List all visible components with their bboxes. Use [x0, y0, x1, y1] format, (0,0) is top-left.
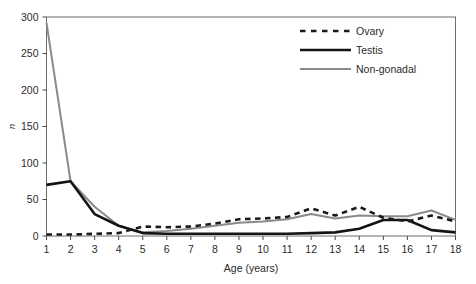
chart-figure: 050100150200250300 123456789101112131415…	[0, 0, 476, 284]
x-tick-label: 14	[353, 243, 365, 255]
series-line-non-gonadal	[47, 23, 456, 233]
x-axis-title: Age (years)	[224, 262, 278, 274]
x-tick-label: 6	[164, 243, 170, 255]
data-series-group	[47, 23, 456, 235]
x-tick-label: 5	[140, 243, 146, 255]
x-axis-ticks: 123456789101112131415161718	[44, 236, 462, 255]
y-tick-label: 100	[21, 157, 39, 169]
x-tick-label: 3	[92, 243, 98, 255]
plot-frame	[47, 17, 456, 236]
x-tick-label: 18	[450, 243, 462, 255]
x-tick-label: 2	[68, 243, 74, 255]
x-tick-label: 1	[44, 243, 50, 255]
legend-label: Testis	[356, 44, 383, 56]
chart-legend: OvaryTestisNon-gonadal	[300, 25, 416, 75]
x-tick-label: 12	[305, 243, 317, 255]
x-tick-label: 8	[212, 243, 218, 255]
x-tick-label: 7	[188, 243, 194, 255]
series-line-testis	[47, 181, 456, 234]
x-tick-label: 4	[116, 243, 122, 255]
x-tick-label: 16	[402, 243, 414, 255]
chart-canvas: 050100150200250300 123456789101112131415…	[0, 0, 476, 284]
y-axis-ticks: 050100150200250300	[21, 11, 47, 242]
y-axis-title: n	[5, 123, 17, 129]
x-tick-label: 10	[257, 243, 269, 255]
plot-box	[47, 17, 456, 236]
x-tick-label: 17	[426, 243, 438, 255]
x-tick-label: 13	[329, 243, 341, 255]
y-tick-label: 200	[21, 84, 39, 96]
y-tick-label: 0	[33, 230, 39, 242]
legend-label: Non-gonadal	[356, 63, 416, 75]
legend-label: Ovary	[356, 25, 385, 37]
y-tick-label: 50	[27, 193, 39, 205]
x-tick-label: 9	[236, 243, 242, 255]
x-tick-label: 15	[377, 243, 389, 255]
y-tick-label: 250	[21, 47, 39, 59]
y-tick-label: 300	[21, 11, 39, 23]
y-tick-label: 150	[21, 120, 39, 132]
x-tick-label: 11	[282, 243, 293, 255]
